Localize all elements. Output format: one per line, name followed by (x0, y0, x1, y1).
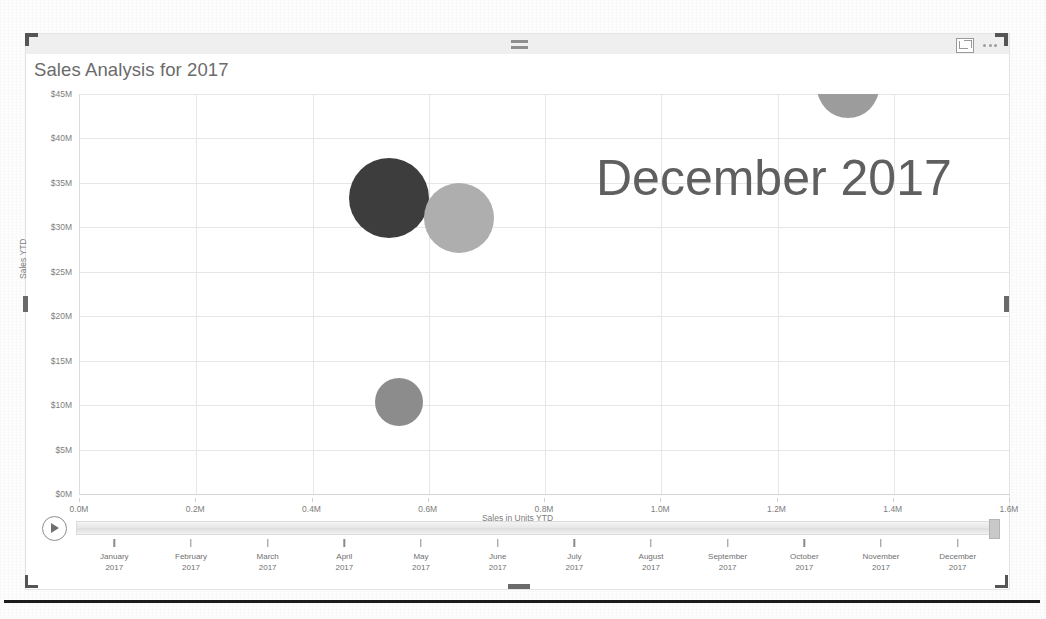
y-axis-tick-label: $25M (51, 267, 72, 277)
timeline-month: April (336, 552, 352, 561)
timeline-year: 2017 (412, 563, 430, 572)
x-axis-tick (1009, 498, 1010, 502)
gridline-vertical (196, 94, 197, 494)
timeline-month: June (489, 552, 506, 561)
gridline-vertical (429, 94, 430, 494)
timeline-month: November (863, 552, 900, 561)
period-watermark: December 2017 (596, 149, 952, 207)
timeline-tick-label[interactable]: June2017 (489, 551, 507, 573)
y-axis-tick-label: $0M (55, 489, 72, 499)
timeline-handle[interactable] (989, 519, 1000, 539)
x-axis-tick (544, 498, 545, 502)
timeline-year: 2017 (719, 563, 737, 572)
x-axis-tick (428, 498, 429, 502)
bubble-clipped-top[interactable] (817, 94, 879, 118)
gridline-vertical (545, 94, 546, 494)
timeline-tick-label[interactable]: May2017 (412, 551, 430, 573)
timeline-slicer[interactable]: January2017February2017March2017April201… (34, 512, 1001, 582)
y-axis-tick-label: $10M (51, 400, 72, 410)
x-axis-tick (312, 498, 313, 502)
y-axis-tick-label: $15M (51, 356, 72, 366)
timeline-tick (420, 539, 421, 547)
timeline-tick (804, 539, 805, 547)
timeline-tick (190, 539, 191, 547)
timeline-month: September (708, 552, 747, 561)
drag-handle-top[interactable] (511, 40, 528, 43)
timeline-tick (650, 539, 651, 547)
bubble-medium[interactable] (375, 378, 423, 426)
timeline-year: 2017 (565, 563, 583, 572)
y-axis-tick-label: $20M (51, 311, 72, 321)
timeline-year: 2017 (335, 563, 353, 572)
timeline-month: February (175, 552, 207, 561)
timeline-tick (957, 539, 958, 547)
timeline-tick (880, 539, 881, 547)
y-axis-tick-label: $40M (51, 133, 72, 143)
timeline-month: December (939, 552, 976, 561)
timeline-year: 2017 (489, 563, 507, 572)
timeline-tick (497, 539, 498, 547)
timeline-year: 2017 (642, 563, 660, 572)
x-axis-tick (79, 498, 80, 502)
timeline-tick-label[interactable]: January2017 (100, 551, 128, 573)
timeline-year: 2017 (872, 563, 890, 572)
y-axis-tick-labels: $0M$5M$10M$15M$20M$25M$30M$35M$40M$45M (26, 89, 78, 499)
x-axis-tick (893, 498, 894, 502)
x-axis-tick (777, 498, 778, 502)
timeline-ticks: January2017February2017March2017April201… (76, 539, 996, 581)
x-axis-tick (195, 498, 196, 502)
timeline-tick (114, 539, 115, 547)
page-root: Sales Analysis for 2017 Sales YTD $0M$5M… (0, 0, 1046, 619)
resize-handle-right[interactable] (1004, 296, 1009, 312)
play-icon[interactable] (42, 516, 67, 541)
timeline-month: January (100, 552, 128, 561)
resize-handle-bottom-left[interactable] (25, 575, 38, 588)
resize-handle-top-left[interactable] (25, 33, 38, 46)
y-axis-tick-label: $35M (51, 178, 72, 188)
bubble-light[interactable] (424, 183, 494, 253)
focus-mode-icon[interactable] (956, 38, 974, 53)
timeline-track[interactable] (76, 521, 998, 535)
timeline-month: July (567, 552, 581, 561)
timeline-year: 2017 (182, 563, 200, 572)
timeline-tick-label[interactable]: October2017 (790, 551, 818, 573)
timeline-tick-label[interactable]: March2017 (257, 551, 279, 573)
timeline-tick (574, 539, 575, 547)
drag-handle-bottom[interactable] (508, 584, 530, 589)
timeline-year: 2017 (949, 563, 967, 572)
timeline-month: March (257, 552, 279, 561)
page-divider (4, 600, 1040, 603)
y-axis-tick-label: $5M (55, 445, 72, 455)
visual-header-icons (956, 38, 997, 53)
timeline-year: 2017 (259, 563, 277, 572)
x-axis-tick (660, 498, 661, 502)
chart-area: Sales YTD $0M$5M$10M$15M$20M$25M$30M$35M… (26, 89, 1009, 539)
page-title: Sales Analysis for 2017 (34, 59, 229, 81)
timeline-year: 2017 (105, 563, 123, 572)
y-axis-tick-label: $45M (51, 89, 72, 99)
resize-handle-top-right[interactable] (995, 33, 1008, 46)
timeline-year: 2017 (795, 563, 813, 572)
visual-header-bar (26, 34, 1009, 54)
timeline-month: May (413, 552, 428, 561)
y-axis-tick-label: $30M (51, 222, 72, 232)
gridline-horizontal (80, 494, 1010, 495)
timeline-tick-label[interactable]: November2017 (863, 551, 900, 573)
resize-handle-bottom-right[interactable] (995, 575, 1008, 588)
timeline-tick-label[interactable]: July2017 (565, 551, 583, 573)
bubble-chart-visual[interactable]: Sales Analysis for 2017 Sales YTD $0M$5M… (25, 33, 1010, 590)
timeline-tick-label[interactable]: April2017 (335, 551, 353, 573)
timeline-tick-label[interactable]: February2017 (175, 551, 207, 573)
bubble-dark[interactable] (349, 158, 429, 238)
timeline-tick-label[interactable]: August2017 (639, 551, 664, 573)
timeline-month: October (790, 552, 818, 561)
timeline-tick-label[interactable]: September2017 (708, 551, 747, 573)
timeline-tick (727, 539, 728, 547)
timeline-month: August (639, 552, 664, 561)
drag-handle-top-secondary[interactable] (511, 46, 528, 49)
gridline-vertical (313, 94, 314, 494)
resize-handle-left[interactable] (23, 296, 28, 312)
timeline-tick-label[interactable]: December2017 (939, 551, 976, 573)
timeline-tick (344, 539, 345, 547)
timeline-tick (267, 539, 268, 547)
